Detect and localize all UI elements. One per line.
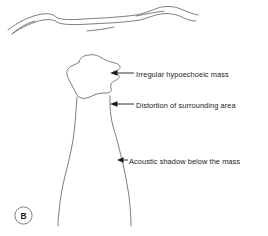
arrow-distortion bbox=[110, 101, 134, 107]
figure-panel: Irregular hypoechoeic mass Distortion of… bbox=[0, 0, 268, 236]
annotation-label-distortion: Distortion of surrounding area bbox=[136, 101, 236, 110]
tissue-fragment-mid-line bbox=[87, 27, 114, 31]
ultrasound-line-drawing bbox=[0, 0, 268, 236]
arrow-shadow-head bbox=[117, 157, 124, 162]
panel-letter: B bbox=[14, 206, 33, 225]
annotation-arrow-group bbox=[110, 70, 134, 163]
arrow-mass bbox=[110, 70, 134, 76]
irregular-mass-outline bbox=[67, 55, 120, 99]
annotation-label-shadow: Acoustic shadow below the mass bbox=[129, 157, 240, 166]
annotation-label-mass: Irregular hypoechoeic mass bbox=[136, 70, 229, 79]
arrow-shadow bbox=[117, 157, 128, 162]
tissue-layer-group bbox=[8, 7, 198, 35]
tissue-layer-upper-line bbox=[8, 7, 198, 31]
acoustic-shadow-left-edge-line bbox=[58, 97, 77, 226]
tissue-fragment-right-line bbox=[136, 11, 164, 16]
panel-letter-label: B bbox=[14, 206, 33, 225]
tissue-layer-lower-line bbox=[12, 14, 196, 34]
arrow-distortion-head bbox=[110, 101, 118, 107]
